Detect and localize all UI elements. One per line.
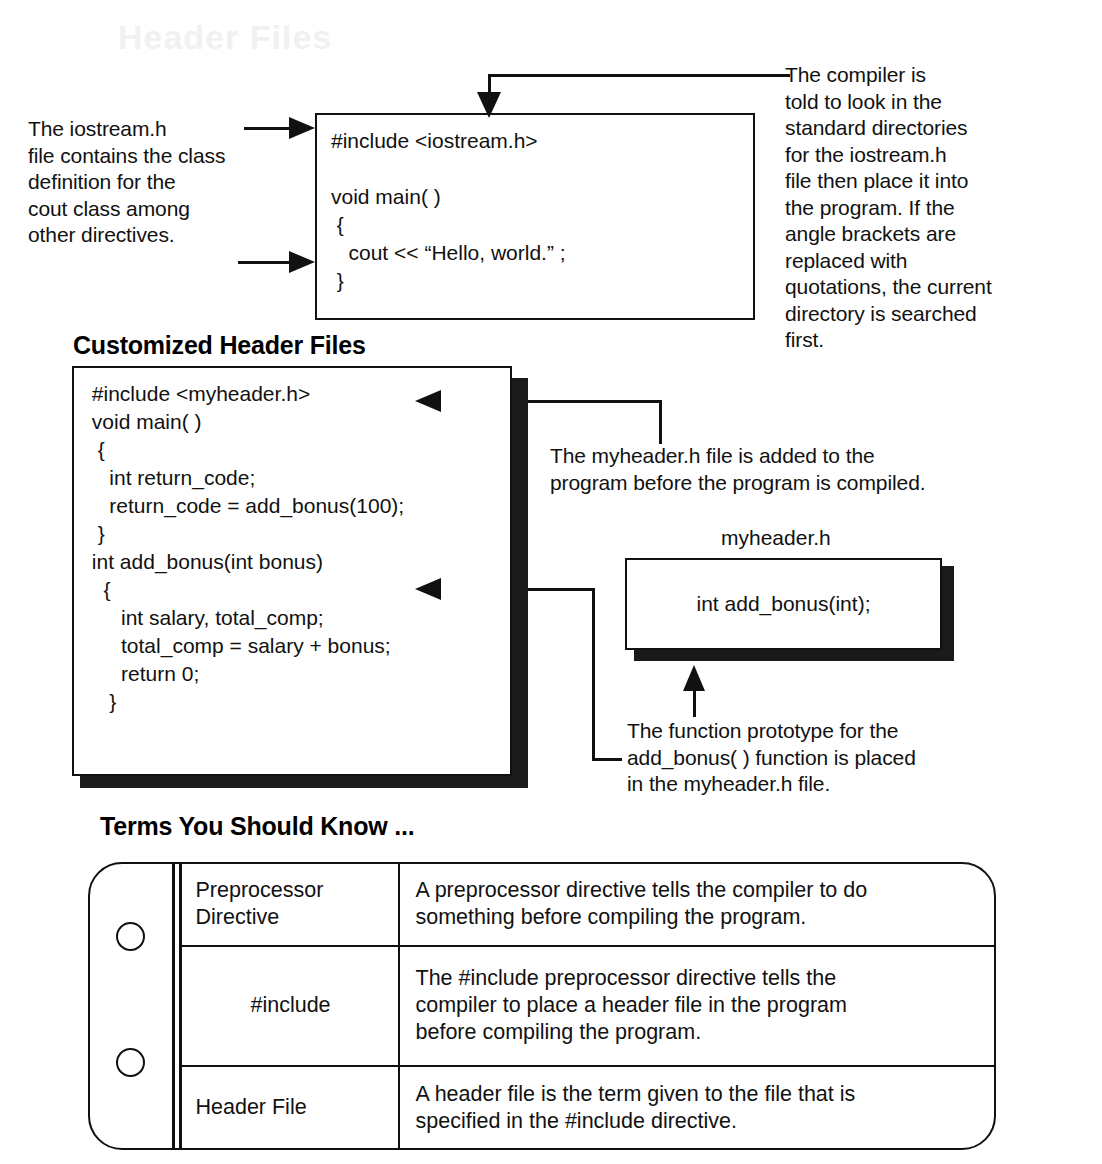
connector-add-bonus-h2 bbox=[592, 758, 622, 761]
code-box-myheader-program-text: #include <myheader.h> void main( ) { int… bbox=[74, 368, 510, 716]
code-box-myheader-program: #include <myheader.h> void main( ) { int… bbox=[72, 366, 512, 776]
table-row: Header File A header file is the term gi… bbox=[182, 1066, 996, 1148]
table-row: Preprocessor Directive A preprocessor di… bbox=[182, 864, 996, 946]
heading-terms-you-should-know: Terms You Should Know ... bbox=[100, 812, 414, 841]
table-row: #include The #include preprocessor direc… bbox=[182, 946, 996, 1067]
terms-table-term-2: Header File bbox=[182, 1066, 399, 1148]
spine-rule-left bbox=[172, 864, 175, 1148]
terms-table-definition-2: A header file is the term given to the f… bbox=[399, 1066, 996, 1148]
arrow-left-icon-myheader-include bbox=[415, 390, 441, 412]
punch-hole-icon-top bbox=[116, 922, 145, 951]
terms-table: Preprocessor Directive A preprocessor di… bbox=[182, 864, 996, 1148]
terms-table-term-1: #include bbox=[182, 946, 399, 1067]
code-box-hello-world-text: #include <iostream.h> void main( ) { cou… bbox=[317, 115, 753, 295]
arrow-right-icon-iostream-top bbox=[289, 117, 315, 139]
scan-ghost-text: Header Files bbox=[118, 18, 678, 64]
annotation-function-prototype: The function prototype for the add_bonus… bbox=[627, 718, 1087, 798]
code-box-myheader-program-shadow bbox=[510, 378, 528, 788]
arrow-right-icon-iostream-bottom bbox=[289, 251, 315, 273]
arrow-up-icon-prototype bbox=[683, 665, 705, 691]
punch-hole-icon-bottom bbox=[116, 1048, 145, 1077]
terms-table-definition-0: A preprocessor directive tells the compi… bbox=[399, 864, 996, 946]
caption-myheader-file: myheader.h bbox=[721, 526, 831, 550]
terms-table-body: Preprocessor Directive A preprocessor di… bbox=[182, 864, 996, 1148]
terms-table-definition-1: The #include preprocessor directive tell… bbox=[399, 946, 996, 1067]
terms-table-term-0: Preprocessor Directive bbox=[182, 864, 399, 946]
binder-spine bbox=[90, 864, 172, 1148]
connector-compiler-horizontal bbox=[488, 74, 790, 77]
annotation-compiler-right: The compiler is told to look in the stan… bbox=[785, 62, 1095, 354]
arrow-down-icon-compiler bbox=[477, 92, 501, 118]
heading-customized-header-files: Customized Header Files bbox=[73, 331, 366, 360]
connector-add-bonus-v bbox=[592, 588, 595, 760]
terms-table-container: Preprocessor Directive A preprocessor di… bbox=[88, 862, 996, 1150]
connector-myheader-include-v bbox=[659, 400, 662, 444]
arrow-left-icon-add-bonus bbox=[415, 578, 441, 600]
annotation-iostream-left: The iostream.h file contains the class d… bbox=[28, 116, 318, 249]
annotation-myheader-added: The myheader.h file is added to the prog… bbox=[550, 443, 1070, 496]
code-box-hello-world: #include <iostream.h> void main( ) { cou… bbox=[315, 113, 755, 320]
connector-prototype-vertical bbox=[693, 689, 696, 717]
code-box-myheader-file-text: int add_bonus(int); bbox=[627, 560, 940, 618]
code-box-myheader-file: int add_bonus(int); bbox=[625, 558, 942, 650]
